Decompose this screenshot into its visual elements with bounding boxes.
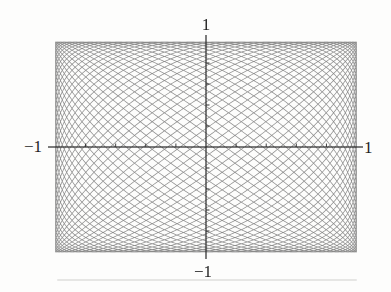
x-axis-max-tick-label: 1: [364, 138, 380, 158]
scan-artifact-line: [57, 279, 357, 281]
y-axis-max-tick-label: 1: [196, 15, 216, 35]
x-axis-min-tick-label: −1: [12, 137, 42, 157]
lissajous-plot-canvas: [47, 34, 364, 260]
lissajous-figure: 1 −1 −1 1: [0, 0, 391, 292]
